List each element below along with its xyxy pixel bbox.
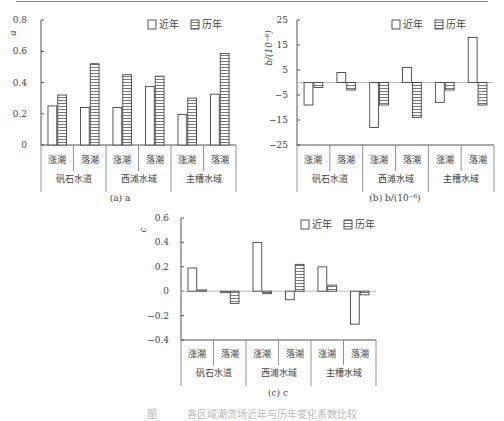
group-label: 西滩水域	[121, 173, 157, 184]
bar-historical	[263, 291, 272, 293]
y-tick-label: 0	[163, 286, 169, 296]
bar-historical	[230, 291, 239, 303]
bar-historical	[295, 264, 304, 291]
bar-recent	[188, 268, 197, 291]
category-label: 落潮	[81, 154, 99, 165]
bar-recent	[145, 86, 154, 145]
category-label: 涨潮	[253, 348, 271, 359]
category-label: 涨潮	[113, 154, 131, 165]
legend-historical-swatch	[344, 220, 352, 229]
category-label: 落潮	[469, 154, 487, 165]
category-label: 涨潮	[318, 348, 336, 359]
y-tick-label: 0.2	[13, 109, 27, 119]
legend-historical-label: 历年	[355, 218, 375, 230]
y-tick-label: 15	[277, 40, 289, 50]
y-tick-label: 0.4	[13, 78, 28, 88]
legend-recent-label: 近年	[312, 218, 332, 230]
bar-historical	[347, 83, 356, 91]
bar-historical	[478, 83, 487, 106]
y-tick-label: 5	[282, 65, 288, 75]
y-tick-label: 0	[21, 140, 27, 150]
bar-recent	[113, 108, 122, 146]
y-tick-label: 0.4	[155, 237, 170, 247]
bar-historical	[328, 285, 337, 291]
category-label: 落潮	[337, 154, 355, 165]
category-label: 涨潮	[370, 154, 388, 165]
legend-recent-label: 近年	[403, 18, 423, 30]
legend-historical-swatch	[191, 20, 199, 29]
y-axis-label: c	[138, 227, 148, 232]
subfigure-caption: (b) b/(10⁻⁶)	[369, 193, 420, 203]
bar-recent	[350, 291, 359, 324]
category-label: 涨潮	[48, 154, 66, 165]
group-label: 矾石水道	[196, 367, 232, 378]
legend-historical-swatch	[435, 20, 443, 29]
y-axis-label: b/(10⁻⁶)	[264, 30, 274, 66]
group-label: 矾石水道	[312, 173, 348, 184]
bar-recent	[178, 115, 187, 145]
group-label: 西滩水域	[261, 367, 297, 378]
group-label: 主槽水域	[326, 367, 362, 378]
bar-historical	[123, 75, 132, 145]
y-tick-label: −0.2	[147, 311, 169, 321]
y-axis-label: a	[8, 30, 18, 35]
bar-recent	[337, 73, 346, 83]
bar-recent	[304, 83, 313, 106]
bar-recent	[253, 242, 262, 291]
bar-recent	[48, 106, 57, 145]
bar-historical	[90, 64, 99, 145]
category-label: 涨潮	[304, 154, 322, 165]
legend-recent-swatch	[392, 20, 400, 29]
category-label: 落潮	[403, 154, 421, 165]
group-label: 矾石水道	[56, 173, 92, 184]
figure-caption: 图 各区域潮流场近年与历年变化系数比较	[0, 406, 504, 421]
group-label: 主槽水域	[186, 173, 222, 184]
subfigure-caption: (a) a	[110, 193, 131, 203]
category-label: 落潮	[221, 348, 239, 359]
bar-historical	[58, 95, 67, 145]
legend-historical-label: 历年	[446, 18, 466, 30]
bar-historical	[220, 54, 229, 145]
legend-recent-swatch	[148, 20, 156, 29]
bar-historical	[155, 76, 164, 145]
y-tick-label: 0.6	[13, 46, 28, 56]
bar-recent	[318, 267, 327, 291]
category-label: 落潮	[211, 154, 229, 165]
bar-recent	[80, 108, 89, 146]
bar-historical	[412, 83, 421, 118]
y-tick-label: −0.4	[147, 335, 169, 345]
category-label: 涨潮	[178, 154, 196, 165]
legend-recent-label: 近年	[159, 18, 179, 30]
bar-recent	[285, 291, 294, 300]
y-tick-label: −15	[269, 115, 288, 125]
bar-historical	[314, 83, 323, 88]
category-label: 落潮	[351, 348, 369, 359]
group-label: 西滩水域	[378, 173, 414, 184]
y-tick-label: 0.8	[13, 15, 28, 25]
bar-historical	[198, 290, 207, 291]
subfigure-caption: (c) c	[268, 388, 288, 398]
bar-recent	[220, 291, 229, 292]
category-label: 涨潮	[436, 154, 454, 165]
bar-historical	[360, 291, 369, 295]
y-tick-label: −25	[269, 140, 288, 150]
legend-recent-swatch	[301, 220, 309, 229]
bar-recent	[210, 94, 219, 145]
bar-recent	[370, 83, 379, 128]
y-tick-label: −5	[275, 90, 289, 100]
y-tick-label: 0.2	[155, 262, 169, 272]
legend-historical-label: 历年	[202, 18, 222, 30]
bar-historical	[188, 98, 197, 145]
bar-recent	[435, 83, 444, 103]
bar-recent	[403, 68, 412, 83]
bar-recent	[468, 38, 477, 83]
bar-historical	[380, 83, 389, 106]
category-label: 涨潮	[188, 348, 206, 359]
category-label: 落潮	[286, 348, 304, 359]
bar-historical	[445, 83, 454, 91]
y-tick-label: 0.6	[155, 213, 170, 223]
group-label: 主槽水域	[443, 173, 479, 184]
category-label: 落潮	[146, 154, 164, 165]
y-tick-label: 25	[277, 15, 289, 25]
